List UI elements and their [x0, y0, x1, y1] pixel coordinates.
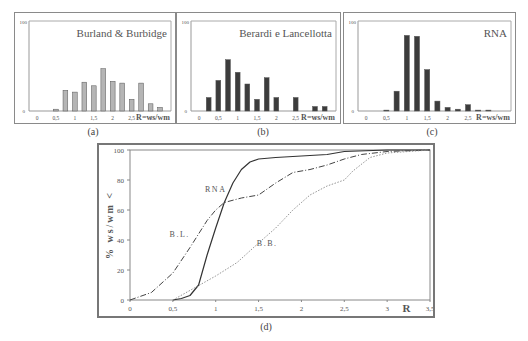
chart-title: Burland & Burbidge — [77, 27, 168, 39]
caption-c: (c) — [417, 126, 447, 137]
cumulative-chart-d: 02040608010000,511,522,533,5R% ws/wm <RN… — [99, 145, 433, 316]
bar — [425, 70, 430, 111]
y-tick-label: 80 — [117, 177, 125, 185]
bar — [414, 36, 419, 111]
y-tick-label: 100 — [349, 20, 357, 25]
bar — [274, 98, 279, 112]
bar — [63, 90, 68, 111]
series-label: B.L. — [170, 230, 190, 239]
histogram-panel-c: 100000,511,522,5R=ws/wmRNA — [343, 12, 516, 124]
y-tick-label: 40 — [117, 237, 125, 245]
y-tick-label: 100 — [20, 20, 28, 25]
bar — [465, 105, 470, 111]
x-tick-label: 1 — [236, 115, 239, 121]
bar — [120, 83, 125, 111]
x-tick-label: 1,5 — [424, 115, 431, 121]
bar — [313, 107, 318, 112]
y-tick-label: 0 — [121, 297, 125, 305]
bar — [110, 81, 115, 111]
x-tick-label: 0 — [36, 115, 39, 121]
bar — [148, 104, 153, 111]
x-axis-label: R=ws/wm — [476, 113, 510, 122]
bar — [394, 91, 399, 111]
bar — [206, 98, 211, 112]
caption-a: (a) — [78, 126, 108, 137]
x-tick-label: 0,5 — [383, 115, 390, 121]
series-line-rna — [173, 150, 430, 300]
y-tick-label: 20 — [117, 267, 125, 275]
x-tick-label: 2,5 — [340, 305, 349, 313]
series-line-bl — [130, 150, 430, 300]
chart-title: RNA — [484, 27, 507, 39]
x-tick-label: 0,5 — [52, 115, 59, 121]
histogram-chart-b: 100000,511,522,53R=ws/wmBerardi e Lancel… — [177, 13, 340, 123]
bar — [445, 107, 450, 111]
x-tick-label: 0 — [128, 305, 132, 313]
x-tick-label: 2,5 — [465, 115, 472, 121]
bar — [139, 83, 144, 111]
bar — [226, 60, 231, 111]
bar — [476, 110, 481, 111]
x-tick-label: 2 — [275, 115, 278, 121]
bar — [158, 107, 163, 111]
bar — [73, 92, 78, 111]
x-axis-label: R=ws/wm — [136, 113, 170, 122]
x-tick-label: 0,5 — [168, 305, 177, 313]
y-tick-label: 100 — [182, 20, 190, 25]
x-axis-label: R — [403, 302, 412, 314]
histogram-panel-b: 100000,511,522,53R=ws/wmBerardi e Lancel… — [176, 12, 341, 124]
x-tick-label: 2 — [446, 115, 449, 121]
x-axis-label: R=ws/wm — [301, 113, 335, 122]
bar — [82, 82, 87, 111]
y-tick-label: 0 — [23, 109, 26, 114]
bar — [91, 86, 96, 111]
y-tick-label: 100 — [114, 147, 125, 155]
bar — [293, 98, 298, 112]
x-tick-label: 1 — [73, 115, 76, 121]
bar — [216, 80, 221, 111]
y-tick-label: 0 — [352, 109, 355, 114]
bar — [486, 110, 491, 111]
caption-b: (b) — [248, 126, 278, 137]
plot-area — [130, 150, 430, 300]
bar — [322, 107, 327, 112]
x-tick-label: 0,5 — [215, 115, 222, 121]
bar — [435, 101, 440, 111]
x-tick-label: 1 — [214, 305, 218, 313]
chart-title: Berardi e Lancellotta — [239, 27, 332, 39]
x-tick-label: 0 — [365, 115, 368, 121]
x-tick-label: 1 — [405, 115, 408, 121]
bar — [101, 69, 106, 111]
cumulative-panel-d: 02040608010000,511,522,533,5R% ws/wm <RN… — [97, 143, 435, 318]
bar — [129, 99, 134, 111]
series-line-bb — [173, 150, 430, 300]
bar — [384, 110, 389, 111]
x-tick-label: 3,5 — [426, 305, 433, 313]
caption-d: (d) — [251, 321, 281, 332]
x-tick-label: 2,5 — [292, 115, 299, 121]
x-tick-label: 0 — [198, 115, 201, 121]
bar — [404, 35, 409, 111]
x-tick-label: 3 — [385, 305, 389, 313]
x-tick-label: 1,5 — [90, 115, 97, 121]
bar — [235, 72, 240, 111]
y-tick-label: 0 — [185, 109, 188, 114]
series-label: B.B. — [257, 239, 278, 248]
bar — [245, 84, 250, 111]
x-tick-label: 2,5 — [128, 115, 135, 121]
x-tick-label: 1,5 — [254, 115, 261, 121]
bar — [255, 99, 260, 111]
bar — [264, 78, 269, 111]
y-tick-label: 60 — [117, 207, 125, 215]
histogram-panel-a: 100000,511,522,53R=ws/wmBurland & Burbid… — [14, 12, 176, 124]
x-tick-label: 1,5 — [254, 305, 263, 313]
bar — [54, 109, 59, 111]
x-tick-label: 2 — [300, 305, 304, 313]
x-tick-label: 2 — [111, 115, 114, 121]
histogram-chart-c: 100000,511,522,5R=ws/wmRNA — [344, 13, 515, 123]
histogram-chart-a: 100000,511,522,53R=ws/wmBurland & Burbid… — [15, 13, 175, 123]
series-label: RNA — [205, 185, 226, 194]
bar — [455, 109, 460, 111]
y-axis-label: % ws/wm < — [104, 191, 115, 259]
